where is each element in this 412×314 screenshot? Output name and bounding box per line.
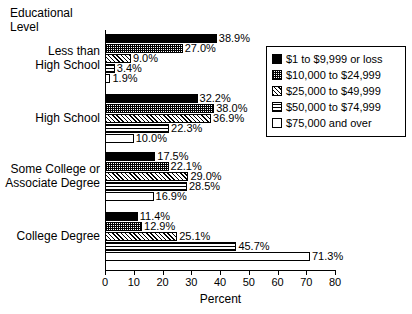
x-axis-tick	[105, 271, 106, 275]
bar	[105, 94, 198, 103]
legend-item-label: $10,000 to $24,999	[286, 69, 381, 81]
legend-item-label: $50,000 to $74,999	[286, 101, 381, 113]
x-axis-tick-label: 50	[237, 276, 261, 288]
x-axis-tick-label: 40	[208, 276, 232, 288]
legend-item: $50,000 to $74,999	[272, 99, 400, 115]
x-axis-tick-label: 20	[151, 276, 175, 288]
legend-item: $1 to $9,999 or loss	[272, 51, 400, 67]
x-axis-tick-label: 30	[179, 276, 203, 288]
legend-item-label: $25,000 to $49,999	[286, 85, 381, 97]
legend-item: $10,000 to $24,999	[272, 67, 400, 83]
bar-value-label: 22.3%	[171, 123, 202, 134]
x-axis-tick	[134, 271, 135, 275]
legend-item-label: $1 to $9,999 or loss	[286, 53, 383, 65]
category-label: Less thanHigh School	[0, 44, 100, 72]
legend-swatch-icon	[272, 102, 282, 112]
category-label-line: College Degree	[0, 229, 100, 243]
bar	[105, 252, 310, 261]
bar	[105, 192, 154, 201]
legend-swatch-icon	[272, 118, 282, 128]
bar-value-label: 25.1%	[179, 231, 210, 242]
bar-value-label: 45.7%	[238, 241, 269, 252]
x-axis-tick-label: 0	[93, 276, 117, 288]
category-label: College Degree	[0, 229, 100, 243]
bar-value-label: 12.9%	[144, 221, 175, 232]
x-axis-tick-label: 70	[294, 276, 318, 288]
bar	[105, 172, 188, 181]
category-label-line: High School	[0, 111, 100, 125]
x-axis-tick	[191, 271, 192, 275]
bar-value-label: 1.9%	[112, 73, 137, 84]
bar	[105, 162, 169, 171]
y-axis-title-line-1: Educational	[10, 6, 105, 20]
bar-value-label: 36.9%	[213, 113, 244, 124]
bar-value-label: 71.3%	[312, 251, 343, 262]
x-axis-tick-label: 10	[122, 276, 146, 288]
legend-item: $25,000 to $49,999	[272, 83, 400, 99]
bar	[105, 134, 134, 143]
category-label-line: Some College or	[0, 162, 100, 176]
x-axis-tick	[335, 271, 336, 275]
x-axis-tick	[306, 271, 307, 275]
bar-value-label: 10.0%	[136, 133, 167, 144]
x-axis-title: Percent	[105, 292, 336, 306]
bar-value-label: 16.9%	[156, 191, 187, 202]
category-label-line: Associate Degree	[0, 176, 100, 190]
bar	[105, 242, 236, 251]
legend-swatch-icon	[272, 86, 282, 96]
bar	[105, 222, 142, 231]
legend: $1 to $9,999 or loss$10,000 to $24,999$2…	[266, 46, 406, 137]
bar	[105, 104, 214, 113]
y-axis-title: Educational Level	[10, 6, 105, 34]
x-axis-tick	[249, 271, 250, 275]
bar	[105, 152, 155, 161]
legend-swatch-icon	[272, 70, 282, 80]
x-axis-tick	[278, 271, 279, 275]
x-axis-tick-label: 80	[323, 276, 347, 288]
x-axis-tick	[163, 271, 164, 275]
x-axis-tick	[220, 271, 221, 275]
category-label-line: Less than	[0, 44, 100, 58]
legend-item: $75,000 and over	[272, 115, 400, 131]
bar-value-label: 27.0%	[185, 43, 216, 54]
bar-chart: Educational Level 0102030405060708038.9%…	[0, 0, 412, 314]
bar	[105, 74, 110, 83]
x-axis-tick-label: 60	[266, 276, 290, 288]
category-label-line: High School	[0, 58, 100, 72]
legend-swatch-icon	[272, 54, 282, 64]
bar	[105, 212, 138, 221]
legend-item-label: $75,000 and over	[286, 117, 372, 129]
bar-value-label: 38.9%	[219, 33, 250, 44]
y-axis-title-line-2: Level	[10, 20, 105, 34]
category-label: High School	[0, 111, 100, 125]
category-label: Some College orAssociate Degree	[0, 162, 100, 190]
bar-value-label: 28.5%	[189, 181, 220, 192]
bar	[105, 232, 177, 241]
